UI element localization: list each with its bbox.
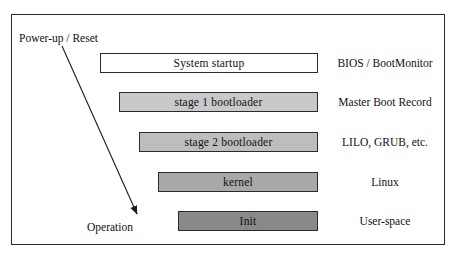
stage-note-user-space: User-space xyxy=(360,215,411,227)
stage-note-lilo-grub: LILO, GRUB, etc. xyxy=(342,136,428,148)
stage-box-kernel: kernel xyxy=(158,172,318,192)
stage-box-stage-2-bootloader: stage 2 bootloader xyxy=(139,132,318,152)
stage-box-stage-1-bootloader: stage 1 bootloader xyxy=(119,92,318,112)
stage-note-linux: Linux xyxy=(371,176,398,188)
stage-box-system-startup: System startup xyxy=(100,53,318,73)
stage-box-init: Init xyxy=(178,211,318,231)
operation-label: Operation xyxy=(87,221,133,233)
boot-process-figure: Power-up / Reset Operation System startu… xyxy=(0,0,456,272)
power-up-reset-label: Power-up / Reset xyxy=(19,32,98,44)
stage-note-master-boot-record: Master Boot Record xyxy=(338,96,431,108)
stage-note-bios-bootmonitor: BIOS / BootMonitor xyxy=(337,57,432,69)
